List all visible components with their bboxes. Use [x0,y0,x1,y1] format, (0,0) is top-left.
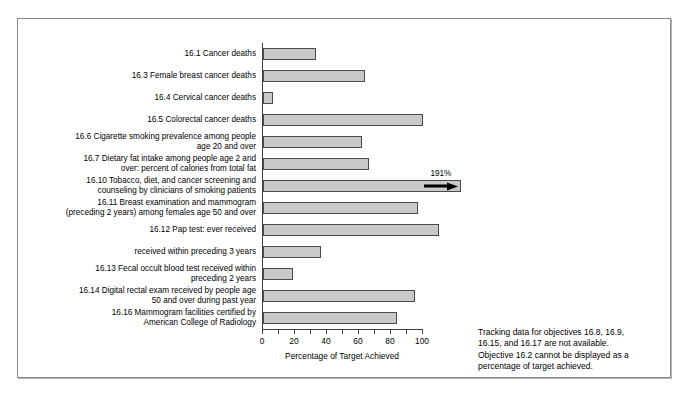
x-axis-tick-label: 100 [415,336,429,346]
x-axis-tick [262,329,263,334]
category-label: received within preceding 3 years [24,247,256,257]
x-axis-tick-label: 20 [289,336,298,346]
bar [263,136,362,148]
plot-area: 191% [262,43,462,329]
bar [263,114,423,126]
bar [263,224,439,236]
x-axis: Percentage of Target Achieved 0204060801… [262,329,462,375]
x-axis-tick-label: 0 [260,336,265,346]
overflow-arrow-icon [424,183,458,190]
x-axis-tick [310,329,311,334]
bar [263,290,415,302]
note-line: Objective 16.2 cannot be displayed as a [478,350,663,361]
category-label: 16.1 Cancer deaths [24,49,256,59]
x-axis-tick [406,329,407,334]
arrow-shaft [424,185,448,188]
bar [263,202,418,214]
x-axis-tick [342,329,343,334]
category-label: 16.6 Cigarette smoking prevalence among … [24,132,256,151]
x-axis-tick [374,329,375,334]
category-label: 16.5 Colorectal cancer deaths [24,115,256,125]
x-axis-tick [358,329,359,334]
chart-note: Tracking data for objectives 16.8, 16.9,… [478,327,663,373]
bar-value-label: 191% [430,169,451,178]
bar-chart: 16.1 Cancer deaths16.3 Female breast can… [18,19,672,379]
category-label: 16.11 Breast examination and mammogram (… [24,198,256,217]
category-label: 16.12 Pap test: ever received [24,225,256,235]
bar [263,158,369,170]
note-line: 16.15, and 16.17 are not available. [478,338,663,349]
category-label: 16.3 Female breast cancer deaths [24,71,256,81]
bar [263,48,316,60]
category-label: 16.14 Digital rectal exam received by pe… [24,286,256,305]
x-axis-tick [278,329,279,334]
bar [263,246,321,258]
category-label: 16.7 Dietary fat intake among people age… [24,154,256,173]
category-label: 16.13 Fecal occult blood test received w… [24,264,256,283]
category-label: 16.4 Cervical cancer deaths [24,93,256,103]
x-axis-tick-label: 60 [353,336,362,346]
note-line: Tracking data for objectives 16.8, 16.9, [478,327,663,338]
category-label: 16.10 Tobacco, diet, and cancer screenin… [24,176,256,195]
bar [263,70,365,82]
x-axis-tick [294,329,295,334]
x-axis-tick [390,329,391,334]
bar [263,268,293,280]
bar [263,312,397,324]
category-label: 16.16 Mammogram facilities certified by … [24,308,256,327]
note-line: percentage of target achieved. [478,361,663,372]
bar [263,92,273,104]
arrow-head [447,183,458,191]
x-axis-title: Percentage of Target Achieved [285,351,399,361]
x-axis-tick [422,329,423,334]
chart-frame: 16.1 Cancer deaths16.3 Female breast can… [17,18,671,378]
x-axis-tick-label: 40 [321,336,330,346]
x-axis-tick-label: 80 [385,336,394,346]
bar [263,180,461,192]
x-axis-tick [326,329,327,334]
